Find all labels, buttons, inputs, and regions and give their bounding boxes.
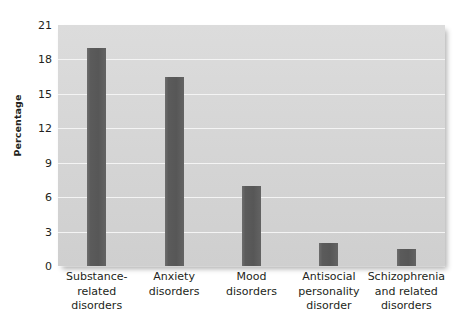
x-axis-category-label-line: disorders	[358, 299, 454, 314]
x-axis-category-label: Schizophreniaand relateddisorders	[358, 270, 454, 314]
x-axis-category-labels: Substance-relateddisordersAnxietydisorde…	[58, 270, 445, 325]
bar	[397, 249, 416, 266]
bar	[242, 186, 261, 266]
bar	[165, 77, 184, 266]
y-axis-title: Percentage	[12, 81, 23, 171]
x-axis-category-label-line: and related	[358, 285, 454, 300]
y-axis-tick-label: 9	[26, 158, 52, 169]
bars-layer	[58, 25, 445, 266]
y-axis-tick-labels: 036912151821	[26, 25, 52, 266]
y-axis-tick-label: 21	[26, 20, 52, 31]
y-axis-tick-label: 3	[26, 227, 52, 238]
bar	[87, 48, 106, 266]
y-axis-tick-label: 18	[26, 54, 52, 65]
x-axis-category-label-line: disorders	[49, 299, 145, 314]
y-axis-tick-label: 12	[26, 123, 52, 134]
y-axis-tick-label: 15	[26, 89, 52, 100]
x-axis-category-label-line: Schizophrenia	[358, 270, 454, 285]
bar-chart-figure: Percentage 036912151821 Substance-relate…	[0, 0, 473, 327]
bar	[319, 243, 338, 266]
plot-area	[58, 25, 445, 266]
y-axis-tick-label: 6	[26, 192, 52, 203]
gridline	[58, 266, 445, 267]
